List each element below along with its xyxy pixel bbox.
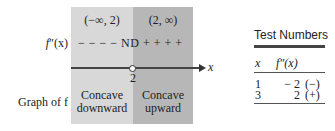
sign-pattern: − − − − ND + + + + [78,36,193,50]
concavity-left: Concave downward [71,89,133,115]
table-bottom-rule [254,103,325,104]
concavity-right: Concave upward [133,89,193,115]
table-header-rule [254,72,325,73]
interval-label-right: (2, ∞) [133,13,193,27]
graph-row-label: Graph of f [0,95,68,109]
table-header-x: x [255,56,260,70]
table-cell-value: 2 [278,89,300,101]
table-header-fpp: f″(x) [276,56,298,70]
interval-label-left: (−∞, 2) [71,13,133,27]
number-line-axis [71,67,201,69]
table-cell-x: 3 [255,89,261,101]
axis-variable-label: x [208,60,213,74]
table-top-rule [254,45,325,48]
concavity-left-line2: downward [71,102,133,115]
test-numbers-title: Test Numbers [254,28,328,42]
arrow-right-icon [199,64,206,72]
table-cell-sign: (+) [305,89,320,101]
critical-value-label: 2 [126,71,140,85]
second-derivative-row-label: f″(x) [0,36,68,50]
concavity-right-line2: upward [133,102,193,115]
